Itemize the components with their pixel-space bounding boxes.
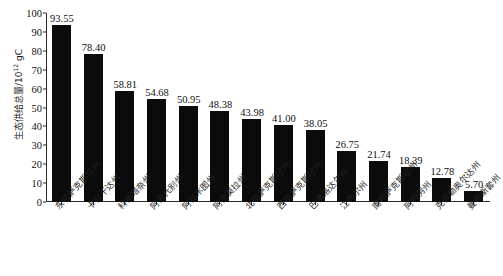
- y-axis-tick-mark: [43, 145, 46, 146]
- y-axis-tick-label: 70: [4, 64, 42, 75]
- y-axis-tick-label: 80: [4, 45, 42, 56]
- y-axis-tick-label: 40: [4, 121, 42, 132]
- y-axis-tick-label: 30: [4, 140, 42, 151]
- bar-slot[interactable]: 21.74: [363, 13, 395, 202]
- y-axis-tick-mark: [43, 31, 46, 32]
- y-axis-tick-mark: [43, 69, 46, 70]
- y-axis-tick-mark: [43, 88, 46, 89]
- y-axis-tick-label: 0: [4, 197, 42, 208]
- y-axis-tick-mark: [43, 126, 46, 127]
- y-axis-tick-mark: [43, 183, 46, 184]
- x-axis-labels: 东哈萨克斯坦州卡拉干达州科斯塔奈州阿克托别州阿拉木图州阿克莫拉州北哈萨克斯坦州西…: [46, 203, 490, 276]
- y-axis-tick-mark: [43, 50, 46, 51]
- y-axis-tick-label: 100: [4, 8, 42, 19]
- y-axis-tick-label: 10: [4, 178, 42, 189]
- y-axis-tick-label: 50: [4, 102, 42, 113]
- bar-slot[interactable]: 12.78: [426, 13, 458, 202]
- y-axis-tick-label: 90: [4, 26, 42, 37]
- y-axis-tick-mark: [43, 107, 46, 108]
- y-axis-tick-mark: [43, 164, 46, 165]
- y-axis-tick-mark: [43, 13, 46, 14]
- y-axis-tick-label: 20: [4, 159, 42, 170]
- y-axis-tick-label: 60: [4, 83, 42, 94]
